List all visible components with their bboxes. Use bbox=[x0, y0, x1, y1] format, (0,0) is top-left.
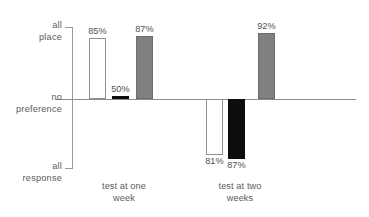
bar-value-label-87-group-1: 87% bbox=[128, 24, 162, 35]
y-axis-tick-top bbox=[65, 27, 72, 28]
y-axis-label-all-place: all place bbox=[0, 20, 62, 43]
y-axis-label-all-response: all response bbox=[0, 161, 62, 184]
y-axis-label-all-response-line2: response bbox=[0, 173, 62, 185]
bar-92-pct-group-2 bbox=[258, 33, 275, 99]
bar-value-label-50-group-1: 50% bbox=[104, 84, 138, 95]
y-axis-line bbox=[72, 27, 73, 169]
bar-87-pct-group-2 bbox=[228, 99, 245, 159]
bar-chart: all place no preference all response 85%… bbox=[0, 0, 369, 217]
y-axis-label-all-response-line1: all bbox=[0, 161, 62, 173]
group-label-test-at-one-week: test at one week bbox=[69, 180, 179, 204]
group-label-test-at-one-week-line2: week bbox=[69, 192, 179, 204]
y-axis-label-all-place-line1: all bbox=[0, 20, 62, 32]
group-label-test-at-two-weeks-line2: weeks bbox=[185, 192, 295, 204]
group-label-test-at-two-weeks: test at two weeks bbox=[185, 180, 295, 204]
bar-50-pct-group-1 bbox=[112, 96, 129, 99]
y-axis-label-no-preference-line1: no bbox=[0, 92, 62, 104]
y-axis-label-no-preference: no preference bbox=[0, 92, 62, 115]
bar-87-pct-group-1 bbox=[136, 36, 153, 99]
bar-value-label-92-group-2: 92% bbox=[250, 21, 284, 32]
group-label-test-at-two-weeks-line1: test at two bbox=[185, 180, 295, 192]
y-axis-tick-bottom bbox=[65, 168, 72, 169]
bar-value-label-85-group-1: 85% bbox=[81, 26, 115, 37]
bar-value-label-87-group-2: 87% bbox=[220, 160, 254, 171]
y-axis-label-all-place-line2: place bbox=[0, 32, 62, 44]
bar-81-pct-group-2 bbox=[206, 99, 223, 155]
group-label-test-at-one-week-line1: test at one bbox=[69, 180, 179, 192]
y-axis-label-no-preference-line2: preference bbox=[0, 104, 62, 116]
